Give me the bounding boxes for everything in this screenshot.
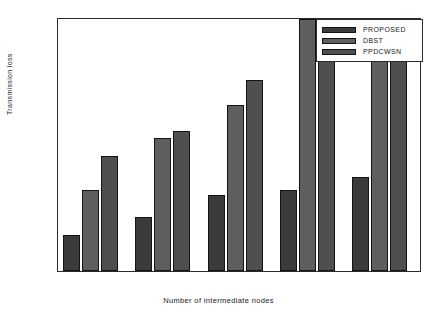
legend-item: DBST bbox=[322, 35, 417, 46]
x-tick-mark bbox=[163, 271, 164, 272]
bar bbox=[135, 217, 152, 271]
x-tick-mark bbox=[380, 271, 381, 272]
bar bbox=[208, 195, 225, 271]
y-tick-mark bbox=[57, 271, 58, 272]
legend-label: DBST bbox=[363, 37, 383, 44]
y-axis-title: Transmission loss bbox=[6, 0, 13, 115]
y-tick-mark bbox=[57, 91, 58, 92]
y-tick-mark bbox=[57, 163, 58, 164]
y-tick-mark bbox=[57, 199, 58, 200]
bar bbox=[227, 105, 244, 271]
bar bbox=[82, 190, 99, 271]
x-tick-mark bbox=[307, 271, 308, 272]
chart-figure: Transmission loss 00.10.20.30.40.50.60.7… bbox=[0, 0, 437, 318]
legend-swatch-icon bbox=[322, 38, 356, 44]
legend-label: PPDCWSN bbox=[363, 48, 402, 55]
bar bbox=[352, 177, 369, 271]
legend-label: PROPOSED bbox=[363, 26, 406, 33]
y-tick-mark bbox=[57, 55, 58, 56]
legend-swatch-icon bbox=[322, 27, 356, 33]
bar bbox=[299, 19, 316, 271]
bar bbox=[173, 131, 190, 271]
legend-item: PPDCWSN bbox=[322, 46, 417, 57]
bar bbox=[63, 235, 80, 271]
bar bbox=[154, 138, 171, 271]
chart-legend: PROPOSEDDBSTPPDCWSN bbox=[316, 19, 423, 62]
y-tick-mark bbox=[57, 127, 58, 128]
bar bbox=[246, 80, 263, 271]
x-tick-mark bbox=[235, 271, 236, 272]
x-axis-title: Number of intermediate nodes bbox=[0, 296, 437, 305]
y-tick-mark bbox=[57, 19, 58, 20]
legend-item: PROPOSED bbox=[322, 24, 417, 35]
bar bbox=[101, 156, 118, 271]
y-tick-mark bbox=[57, 235, 58, 236]
legend-swatch-icon bbox=[322, 49, 356, 55]
bar bbox=[280, 190, 297, 271]
x-tick-mark bbox=[90, 271, 91, 272]
